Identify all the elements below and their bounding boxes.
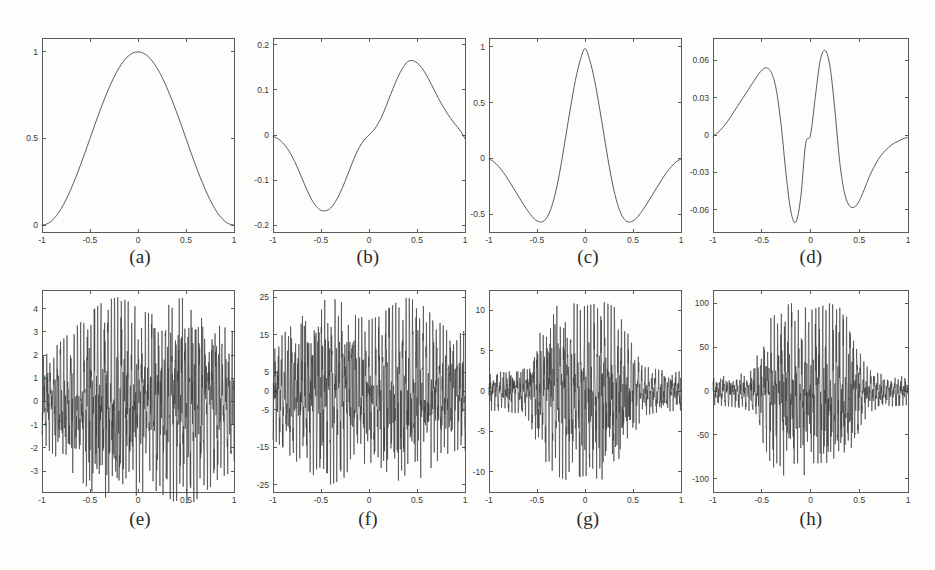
svg-text:0.5: 0.5 xyxy=(473,98,485,108)
svg-text:0: 0 xyxy=(480,153,485,163)
svg-text:15: 15 xyxy=(260,330,270,340)
panel-c-plot: -1-0.500.51-0.500.51 xyxy=(447,26,687,246)
svg-text:0: 0 xyxy=(367,495,372,505)
svg-text:-1: -1 xyxy=(709,235,717,245)
svg-text:1: 1 xyxy=(906,495,911,505)
svg-text:-10: -10 xyxy=(473,467,486,477)
svg-text:0.5: 0.5 xyxy=(627,495,639,505)
svg-text:-1: -1 xyxy=(38,235,46,245)
svg-text:-2: -2 xyxy=(30,443,38,453)
svg-text:0: 0 xyxy=(264,130,269,140)
svg-text:-1: -1 xyxy=(485,235,493,245)
svg-text:-5: -5 xyxy=(261,405,269,415)
svg-text:0: 0 xyxy=(480,386,485,396)
svg-text:0.5: 0.5 xyxy=(26,133,38,143)
svg-text:1: 1 xyxy=(906,235,911,245)
svg-text:-1: -1 xyxy=(30,420,38,430)
svg-text:-0.03: -0.03 xyxy=(690,167,710,177)
svg-text:-1: -1 xyxy=(38,495,46,505)
svg-text:0.06: 0.06 xyxy=(692,55,709,65)
svg-text:-0.5: -0.5 xyxy=(83,235,98,245)
svg-text:-25: -25 xyxy=(257,480,270,490)
panel-b: -1-0.500.51-0.2-0.100.10.2 xyxy=(231,26,471,246)
svg-text:0: 0 xyxy=(264,386,269,396)
svg-text:-0.5: -0.5 xyxy=(470,209,485,219)
svg-text:-100: -100 xyxy=(692,474,709,484)
panel-h-plot: -1-0.500.51-100-50050100 xyxy=(666,278,916,506)
svg-text:1: 1 xyxy=(480,42,485,52)
svg-text:-1: -1 xyxy=(485,495,493,505)
svg-text:-0.5: -0.5 xyxy=(83,495,98,505)
panel-e-plot: -1-0.500.51-3-2-101234 xyxy=(0,278,240,506)
svg-text:0.5: 0.5 xyxy=(411,495,423,505)
svg-text:0: 0 xyxy=(583,495,588,505)
panel-a-plot: -1-0.500.5100.51 xyxy=(0,26,240,246)
svg-text:1: 1 xyxy=(33,373,38,383)
panel-f: -1-0.500.51-25-15-5051525 xyxy=(231,278,471,506)
svg-text:5: 5 xyxy=(480,346,485,356)
svg-text:2: 2 xyxy=(33,350,38,360)
svg-text:3: 3 xyxy=(33,327,38,337)
panel-e: -1-0.500.51-3-2-101234 xyxy=(0,278,240,506)
svg-text:0: 0 xyxy=(704,386,709,396)
panel-b-caption: (b) xyxy=(318,246,418,268)
panel-d: -1-0.500.51-0.06-0.0300.030.06 xyxy=(666,26,916,246)
svg-text:0: 0 xyxy=(808,235,813,245)
panel-a-caption: (a) xyxy=(90,246,190,268)
svg-text:0: 0 xyxy=(136,235,141,245)
svg-text:-0.5: -0.5 xyxy=(530,495,545,505)
svg-text:-50: -50 xyxy=(697,430,710,440)
svg-text:4: 4 xyxy=(33,304,38,314)
panel-f-plot: -1-0.500.51-25-15-5051525 xyxy=(231,278,471,506)
svg-text:0.2: 0.2 xyxy=(257,40,269,50)
panel-g-caption: (g) xyxy=(538,508,638,530)
svg-text:-1: -1 xyxy=(709,495,717,505)
panel-a: -1-0.500.5100.51 xyxy=(0,26,240,246)
svg-text:-1: -1 xyxy=(269,235,277,245)
panel-e-caption: (e) xyxy=(90,508,190,530)
svg-text:0: 0 xyxy=(704,130,709,140)
svg-text:0.1: 0.1 xyxy=(257,85,269,95)
svg-text:-0.5: -0.5 xyxy=(530,235,545,245)
svg-text:0.5: 0.5 xyxy=(411,235,423,245)
svg-text:0.5: 0.5 xyxy=(853,235,865,245)
svg-text:0.5: 0.5 xyxy=(180,235,192,245)
wavelet-figure: -1-0.500.5100.51 (a) -1-0.500.51-0.2-0.1… xyxy=(0,0,935,570)
svg-text:0: 0 xyxy=(33,396,38,406)
svg-text:0: 0 xyxy=(583,235,588,245)
svg-text:0.5: 0.5 xyxy=(180,495,192,505)
svg-text:-0.5: -0.5 xyxy=(314,235,329,245)
svg-text:-3: -3 xyxy=(30,466,38,476)
panel-f-caption: (f) xyxy=(318,508,418,530)
svg-text:0.5: 0.5 xyxy=(627,235,639,245)
svg-text:-15: -15 xyxy=(257,442,270,452)
svg-text:-0.5: -0.5 xyxy=(314,495,329,505)
svg-text:-5: -5 xyxy=(477,426,485,436)
svg-text:50: 50 xyxy=(700,342,710,352)
svg-text:0: 0 xyxy=(33,220,38,230)
panel-g: -1-0.500.51-10-50510 xyxy=(447,278,687,506)
svg-text:-1: -1 xyxy=(269,495,277,505)
panel-g-plot: -1-0.500.51-10-50510 xyxy=(447,278,687,506)
svg-text:0: 0 xyxy=(136,495,141,505)
panel-c-caption: (c) xyxy=(538,246,638,268)
svg-text:-0.5: -0.5 xyxy=(754,235,769,245)
panel-d-plot: -1-0.500.51-0.06-0.0300.030.06 xyxy=(666,26,916,246)
panel-h: -1-0.500.51-100-50050100 xyxy=(666,278,916,506)
svg-text:-0.06: -0.06 xyxy=(690,205,710,215)
svg-text:0.5: 0.5 xyxy=(853,495,865,505)
svg-text:1: 1 xyxy=(33,47,38,57)
svg-text:10: 10 xyxy=(476,305,486,315)
panel-b-plot: -1-0.500.51-0.2-0.100.10.2 xyxy=(231,26,471,246)
panel-h-caption: (h) xyxy=(761,508,861,530)
svg-text:100: 100 xyxy=(695,298,709,308)
svg-text:-0.1: -0.1 xyxy=(254,175,269,185)
svg-text:-0.5: -0.5 xyxy=(754,495,769,505)
svg-text:-0.2: -0.2 xyxy=(254,220,269,230)
svg-text:0.03: 0.03 xyxy=(692,93,709,103)
panel-c: -1-0.500.51-0.500.51 xyxy=(447,26,687,246)
panel-d-caption: (d) xyxy=(761,246,861,268)
svg-text:0: 0 xyxy=(367,235,372,245)
svg-text:0: 0 xyxy=(808,495,813,505)
svg-text:25: 25 xyxy=(260,292,270,302)
